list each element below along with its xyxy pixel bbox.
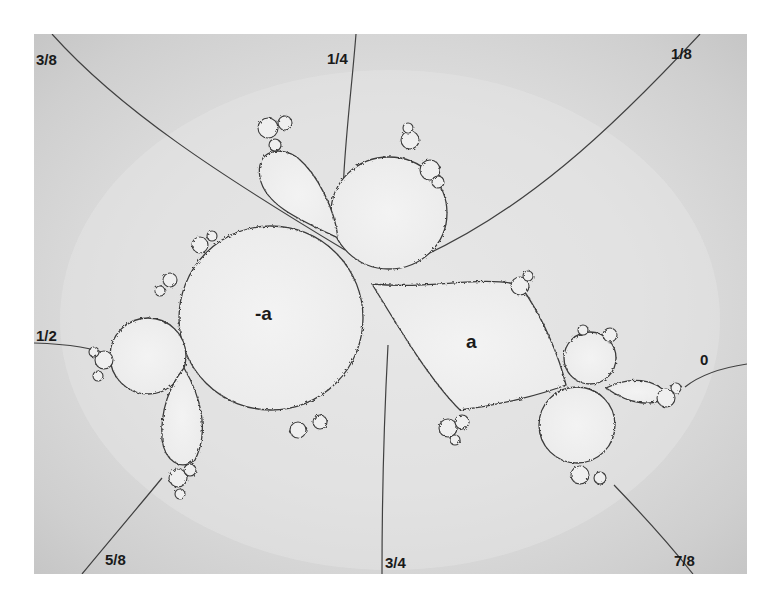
ray-label-3-8: 3/8 (36, 52, 57, 67)
julia-set-diagram: 3/8 1/4 1/8 1/2 5/8 3/4 7/8 0 -a a (34, 34, 747, 574)
ray-label-7-8: 7/8 (674, 553, 695, 568)
ray-label-1-8: 1/8 (671, 46, 692, 61)
julia-set-canvas (34, 34, 747, 574)
ray-label-5-8: 5/8 (105, 552, 126, 567)
ray-label-1-2: 1/2 (36, 328, 57, 343)
ray-label-1-4: 1/4 (327, 51, 348, 66)
ray-label-3-4: 3/4 (385, 555, 406, 570)
region-label-a: a (466, 332, 477, 351)
ray-label-0: 0 (700, 352, 708, 367)
region-label-minus-a: -a (255, 304, 272, 323)
